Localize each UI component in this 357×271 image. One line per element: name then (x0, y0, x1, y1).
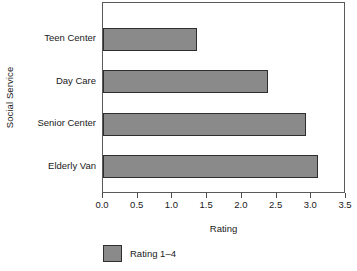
y-tick-label-3: Elderly Van (48, 161, 96, 171)
y-tick-label-1: Day Care (56, 76, 96, 86)
x-tick-1 (137, 193, 138, 198)
plot-area (102, 2, 345, 193)
chart-legend: Rating 1–4 (103, 245, 176, 262)
x-tick-label-7: 3.5 (325, 199, 357, 210)
x-tick-7 (345, 193, 346, 198)
x-tick-5 (276, 193, 277, 198)
bar-chart: Social Service Teen Center Day Care Seni… (0, 0, 357, 271)
x-axis-title: Rating (102, 223, 345, 234)
x-tick-0 (102, 193, 103, 198)
bar-teen-center (103, 28, 197, 51)
y-axis-title: Social Service (0, 0, 20, 195)
legend-swatch-rating (103, 245, 122, 262)
x-tick-2 (171, 193, 172, 198)
legend-label-rating: Rating 1–4 (130, 248, 176, 259)
bar-elderly-van (103, 155, 318, 178)
bar-day-care (103, 70, 268, 93)
bar-senior-center (103, 113, 306, 136)
x-tick-4 (241, 193, 242, 198)
x-tick-3 (206, 193, 207, 198)
x-tick-6 (310, 193, 311, 198)
y-axis-title-text: Social Service (5, 67, 16, 129)
y-tick-label-2: Senior Center (37, 118, 96, 128)
y-tick-label-0: Teen Center (44, 33, 96, 43)
